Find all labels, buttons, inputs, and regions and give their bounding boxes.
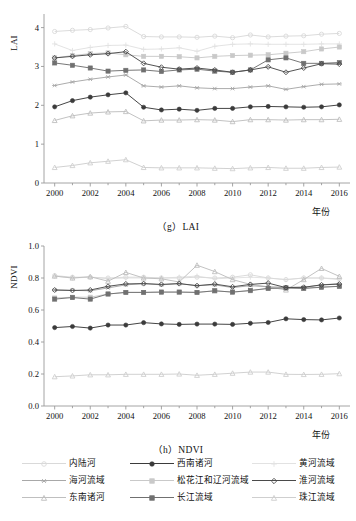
data-point-marker [177, 45, 182, 50]
legend-swatch [252, 492, 296, 503]
data-point-marker [106, 69, 110, 73]
y-tick-label: 2 [35, 100, 39, 110]
ndvi-x-axis-title: 年份 [312, 428, 330, 441]
data-point-marker [159, 322, 163, 326]
figure-lai-ndvi: LAI 012342000200220042006200820102012201… [0, 0, 356, 521]
data-point-marker [284, 317, 288, 321]
x-tick-label: 2006 [153, 188, 171, 198]
data-point-marker [337, 45, 341, 49]
data-point-marker [88, 45, 93, 50]
data-point-marker [271, 478, 276, 483]
data-point-marker [319, 105, 323, 109]
data-point-marker [266, 42, 271, 47]
data-point-marker [53, 297, 57, 301]
data-point-marker [230, 87, 235, 91]
series-珠江流域 [52, 157, 341, 170]
data-point-marker [106, 93, 110, 97]
x-tick-label: 2016 [331, 188, 349, 198]
data-point-marker [230, 106, 234, 110]
legend-item-4[interactable]: 海河流域 [22, 475, 130, 486]
data-point-marker [124, 323, 128, 327]
ndvi-y-axis-title: NDVI [9, 254, 19, 300]
data-point-marker [159, 46, 164, 51]
x-tick-label: 2004 [117, 188, 135, 198]
data-point-marker [230, 322, 234, 326]
lai-caption: （g）LAI [0, 219, 356, 233]
data-point-marker [53, 61, 57, 65]
data-point-marker [159, 85, 164, 89]
data-point-marker [88, 78, 93, 82]
x-tick-label: 2014 [295, 188, 313, 198]
legend-item-5[interactable]: 松花江和辽河流域 [130, 475, 252, 486]
series-西南诸河 [53, 91, 342, 113]
legend-marker-icon [269, 458, 280, 469]
series-line [55, 93, 340, 110]
data-point-marker [142, 68, 146, 72]
data-point-marker [248, 41, 253, 46]
data-point-marker [337, 82, 342, 86]
chart-legend: 内陆河西南诸河黄河流域海河流域松花江和辽河流域淮河流域东南诸河长江流域珠江流域 [0, 455, 356, 513]
data-point-marker [124, 91, 128, 95]
data-point-marker [41, 479, 46, 483]
data-point-marker [195, 322, 199, 326]
data-point-marker [150, 478, 155, 483]
legend-item-2[interactable]: 西南诸河 [130, 458, 252, 469]
legend-item-8[interactable]: 长江流域 [130, 492, 252, 503]
data-point-marker [177, 55, 181, 59]
ndvi-plot-area: 0.00.20.40.60.81.02000200220042006200820… [0, 232, 356, 428]
data-point-marker [319, 318, 323, 322]
legend-item-9[interactable]: 珠江流域 [252, 492, 356, 503]
data-point-marker [53, 326, 57, 330]
data-point-marker [301, 85, 306, 89]
data-point-marker [337, 316, 341, 320]
x-tick-label: 2000 [46, 411, 63, 421]
data-point-marker [41, 495, 46, 500]
y-tick-label: 0 [35, 178, 39, 188]
data-point-marker [337, 103, 341, 107]
legend-label: 东南诸河 [69, 493, 105, 502]
series-line [55, 160, 340, 169]
data-point-marker [230, 290, 234, 294]
legend-swatch [22, 492, 66, 503]
data-point-marker [266, 53, 270, 57]
data-point-marker [150, 495, 155, 500]
data-point-marker [124, 290, 128, 294]
data-point-marker [159, 108, 163, 112]
ndvi-caption: （h）NDVI [0, 442, 356, 456]
data-point-marker [195, 108, 199, 112]
series-西南诸河 [53, 316, 342, 330]
x-tick-label: 2012 [260, 411, 277, 421]
data-point-marker [70, 295, 74, 299]
data-point-marker [142, 54, 146, 58]
data-point-marker [248, 85, 253, 89]
data-point-marker [213, 289, 217, 293]
x-tick-label: 2012 [260, 188, 277, 198]
legend-marker-icon [147, 492, 158, 503]
data-point-marker [177, 290, 181, 294]
data-point-marker [52, 41, 57, 46]
data-point-marker [319, 47, 323, 51]
legend-item-1[interactable]: 内陆河 [22, 458, 130, 469]
data-point-marker [266, 84, 271, 88]
series-内陆河 [53, 24, 342, 39]
x-tick-label: 2010 [224, 411, 241, 421]
legend-item-3[interactable]: 黄河流域 [252, 458, 356, 469]
data-point-marker [195, 86, 200, 90]
data-point-marker [177, 107, 181, 111]
data-point-marker [194, 49, 199, 54]
y-tick-label: 1 [35, 139, 39, 149]
data-point-marker [337, 371, 342, 376]
series-长江流域 [53, 284, 342, 301]
data-point-marker [159, 54, 163, 58]
legend-item-7[interactable]: 东南诸河 [22, 492, 130, 503]
legend-swatch [130, 475, 174, 486]
data-point-marker [124, 68, 128, 72]
data-point-marker [70, 48, 75, 53]
data-point-marker [319, 83, 324, 87]
data-point-marker [271, 495, 276, 500]
legend-marker-icon [147, 458, 158, 469]
legend-item-6[interactable]: 淮河流域 [252, 475, 356, 486]
data-point-marker [284, 105, 288, 109]
data-point-marker [266, 58, 270, 62]
data-point-marker [177, 322, 181, 326]
